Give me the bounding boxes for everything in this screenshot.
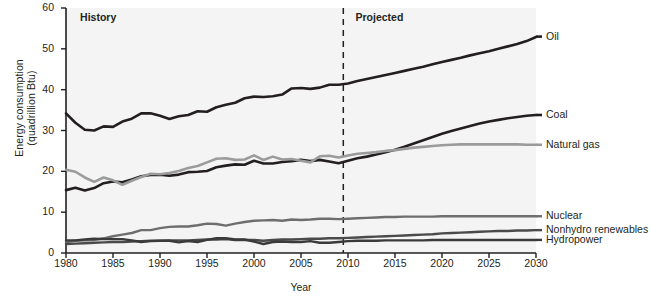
series-line-natural-gas bbox=[66, 144, 536, 184]
y-axis-tick-label: 30 bbox=[26, 124, 54, 136]
energy-consumption-chart: Energy consumption (quadrillion Btu) Yea… bbox=[0, 0, 651, 304]
y-axis-title-line1: Energy consumption bbox=[13, 23, 25, 193]
series-label-hydropower: Hydropower bbox=[546, 233, 603, 245]
x-axis-title: Year bbox=[66, 281, 536, 293]
series-label-natural-gas: Natural gas bbox=[546, 138, 600, 150]
series-line-oil bbox=[66, 37, 536, 131]
y-axis-tick-label: 10 bbox=[26, 205, 54, 217]
series-label-oil: Oil bbox=[546, 30, 559, 42]
annotation-history: History bbox=[80, 11, 116, 23]
x-axis-tick-label: 2030 bbox=[506, 257, 566, 269]
y-axis-tick-label: 50 bbox=[26, 42, 54, 54]
annotation-projected: Projected bbox=[356, 11, 404, 23]
y-axis-tick-label: 60 bbox=[26, 1, 54, 13]
y-axis-tick-label: 20 bbox=[26, 164, 54, 176]
series-label-coal: Coal bbox=[546, 108, 568, 120]
y-axis-tick-label: 40 bbox=[26, 83, 54, 95]
series-label-nuclear: Nuclear bbox=[546, 209, 582, 221]
